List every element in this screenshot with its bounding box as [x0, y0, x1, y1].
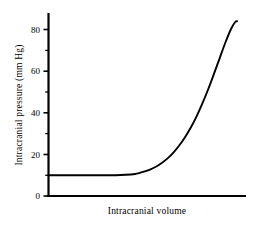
- pressure-volume-chart: 80 60 40 20 0 Intracranial pressure (mm …: [0, 0, 268, 227]
- x-axis-title: Intracranial volume: [108, 206, 186, 216]
- y-tick-label-80: 80: [31, 25, 41, 35]
- chart-figure: 80 60 40 20 0 Intracranial pressure (mm …: [0, 0, 268, 227]
- y-tick-label-60: 60: [31, 66, 41, 76]
- y-tick-label-20: 20: [31, 150, 41, 160]
- y-tick-label-0: 0: [36, 191, 41, 201]
- y-axis-title: Intracranial pressure (mm Hg): [14, 44, 25, 165]
- y-tick-label-40: 40: [31, 108, 41, 118]
